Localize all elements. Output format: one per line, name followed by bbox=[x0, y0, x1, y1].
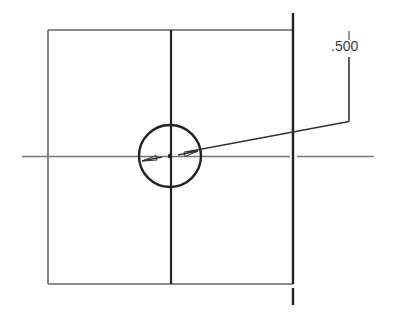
dimension-label: .500 bbox=[331, 38, 358, 54]
center-point bbox=[168, 154, 172, 158]
dimension-leader-line bbox=[186, 31, 349, 152]
